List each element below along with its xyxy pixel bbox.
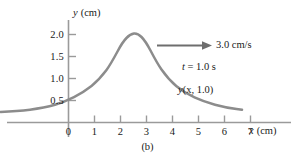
y-tick-marks	[69, 35, 77, 101]
x-axis-title-var: x	[249, 125, 254, 136]
x-tick-label-0: 0	[62, 127, 76, 138]
wave-pulse-figure: y(cm) 2.0 1.5 1.0 0.5 0 1 2 3 4 5 6 7 x(…	[0, 0, 295, 156]
y-axis-title-var: y	[73, 7, 78, 18]
figure-caption: (b)	[0, 142, 295, 153]
y-tick-label-0.5: 0.5	[38, 96, 64, 107]
x-tick-label-1: 1	[88, 127, 102, 138]
x-tick-label-2: 2	[114, 127, 128, 138]
y-axis-title-unit: (cm)	[81, 7, 101, 18]
y-tick-label-2.0: 2.0	[38, 30, 64, 41]
x-tick-label-3: 3	[140, 127, 154, 138]
x-axis-title-unit: (cm)	[257, 125, 277, 136]
x-tick-label-6: 6	[218, 127, 232, 138]
time-annotation: t = 1.0 s	[182, 62, 216, 73]
velocity-arrow-icon	[157, 41, 212, 50]
x-tick-label-5: 5	[192, 127, 206, 138]
velocity-annotation: 3.0 cm/s	[216, 40, 252, 51]
y-axis-title: y(cm)	[73, 8, 101, 19]
curve-label-rest: (x, 1.0)	[183, 84, 214, 95]
x-axis-title: x(cm)	[249, 126, 277, 137]
x-tick-label-4: 4	[166, 127, 180, 138]
y-tick-label-1.0: 1.0	[38, 74, 64, 85]
curve-label: y(x, 1.0)	[178, 85, 213, 96]
y-tick-label-1.5: 1.5	[38, 52, 64, 63]
x-tick-marks	[95, 116, 251, 123]
time-annotation-value: = 1.0 s	[185, 61, 216, 72]
